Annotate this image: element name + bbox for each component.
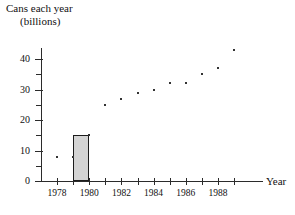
x-axis-title: Year — [266, 176, 286, 187]
data-point — [88, 134, 90, 136]
data-point — [169, 82, 171, 84]
data-point — [201, 73, 203, 75]
data-point — [72, 156, 74, 158]
data-points — [0, 0, 295, 215]
data-point — [104, 104, 106, 106]
scatter-chart: Cans each year (billions) 010203040 1978… — [0, 0, 295, 215]
data-point — [153, 89, 155, 91]
data-point — [137, 92, 139, 94]
data-point — [185, 82, 187, 84]
data-point — [233, 49, 235, 51]
data-point — [56, 156, 58, 158]
data-point — [120, 98, 122, 100]
data-point — [217, 67, 219, 69]
